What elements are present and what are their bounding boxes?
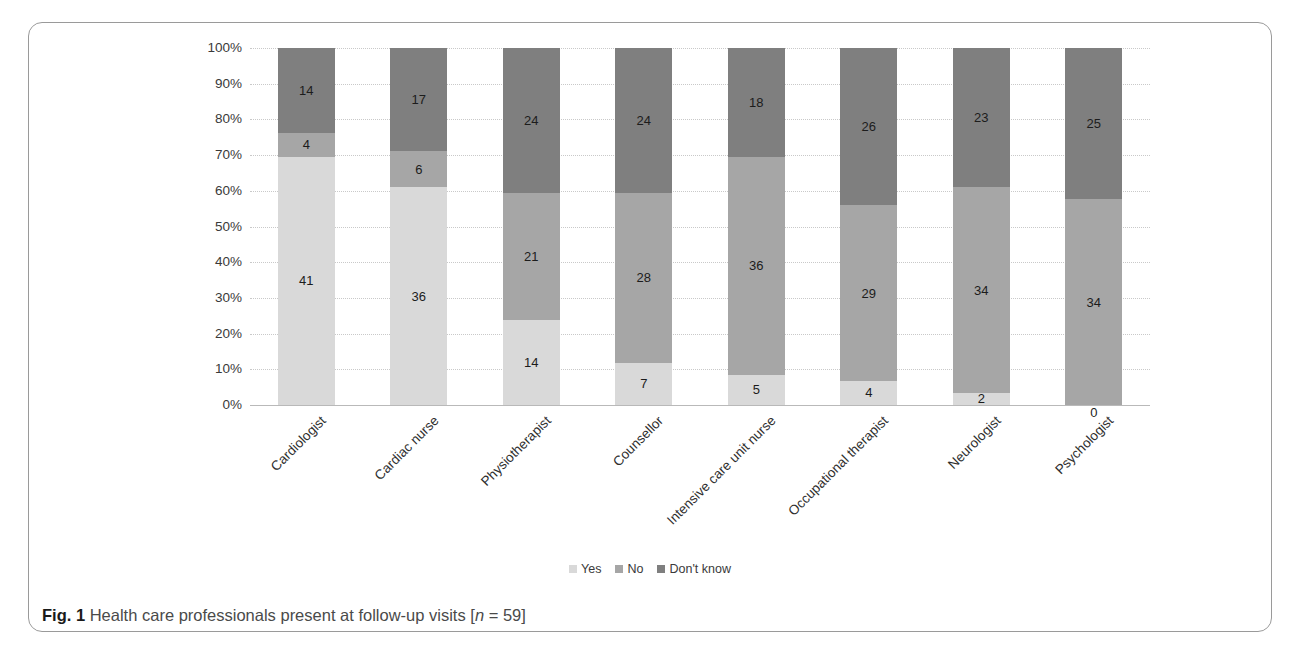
- bar-value-label: 18: [749, 96, 763, 109]
- legend-swatch-icon: [615, 565, 623, 573]
- bar-column[interactable]: 41414: [278, 48, 335, 405]
- bar-segment[interactable]: 24: [503, 48, 560, 193]
- bar-column[interactable]: 53618: [728, 48, 785, 405]
- figure-number: Fig. 1: [42, 606, 85, 624]
- x-axis-tick-label: Cardiologist: [268, 413, 329, 474]
- bar-segment[interactable]: 24: [615, 48, 672, 193]
- bar-segment[interactable]: 14: [278, 48, 335, 133]
- bar-value-label: 21: [524, 250, 538, 263]
- x-axis-tick-label: Psychologist: [1052, 413, 1116, 477]
- plot-area: 4141436617142124728245361842926234230342…: [250, 48, 1150, 405]
- gridline: [250, 227, 1150, 228]
- bar-value-label: 28: [637, 271, 651, 284]
- bar-value-label: 17: [412, 93, 426, 106]
- bar-segment[interactable]: 29: [840, 205, 897, 380]
- bar-segment[interactable]: 6: [390, 151, 447, 187]
- y-axis-tick-label: 90%: [196, 77, 242, 91]
- figure-caption-n: [n = 59]: [470, 606, 526, 624]
- bar-value-label: 4: [865, 386, 872, 399]
- y-axis-tick-label: 40%: [196, 255, 242, 269]
- gridline: [250, 119, 1150, 120]
- bar-value-label: 25: [1087, 117, 1101, 130]
- chart-area: 0%10%20%30%40%50%60%70%80%90%100% 414143…: [0, 0, 1300, 600]
- y-axis-tick-label: 30%: [196, 291, 242, 305]
- bar-segment[interactable]: 17: [390, 48, 447, 151]
- bar-segment[interactable]: 41: [278, 157, 335, 405]
- x-axis-tick-label: Occupational therapist: [786, 413, 892, 519]
- bar-segment[interactable]: 4: [840, 381, 897, 405]
- chart-legend: YesNoDon't know: [0, 558, 1300, 580]
- gridline: [250, 191, 1150, 192]
- bar-column[interactable]: 03425: [1065, 48, 1122, 405]
- x-axis-tick-label: Cardiac nurse: [371, 413, 441, 483]
- bar-segment[interactable]: 21: [503, 193, 560, 320]
- bar-value-label: 7: [640, 377, 647, 390]
- figure-caption-text: Health care professionals present at fol…: [90, 606, 466, 624]
- bar-segment[interactable]: 26: [840, 48, 897, 205]
- legend-item[interactable]: No: [615, 562, 643, 576]
- y-axis-tick-label: 100%: [196, 41, 242, 55]
- bar-segment[interactable]: 18: [728, 48, 785, 157]
- gridline: [250, 48, 1150, 49]
- bar-value-label: 24: [637, 114, 651, 127]
- bar-value-label: 4: [303, 138, 310, 151]
- y-axis-tick-label: 10%: [196, 362, 242, 376]
- bar-value-label: 29: [862, 287, 876, 300]
- bar-segment[interactable]: 36: [728, 157, 785, 375]
- legend-label: Don't know: [669, 562, 730, 576]
- x-axis-tick-label: Counsellor: [610, 413, 666, 469]
- figure-caption: Fig. 1 Health care professionals present…: [42, 600, 1248, 630]
- legend-item[interactable]: Yes: [569, 562, 601, 576]
- bar-value-label: 23: [974, 111, 988, 124]
- bar-value-label: 36: [749, 259, 763, 272]
- bar-column[interactable]: 23423: [953, 48, 1010, 405]
- bar-segment[interactable]: 7: [615, 363, 672, 405]
- y-axis-tick-label: 50%: [196, 220, 242, 234]
- bar-value-label: 24: [524, 114, 538, 127]
- y-axis-tick-label: 80%: [196, 112, 242, 126]
- bar-value-label: 2: [978, 392, 985, 405]
- bar-segment[interactable]: 5: [728, 375, 785, 405]
- y-axis-tick-label: 70%: [196, 148, 242, 162]
- gridline: [250, 84, 1150, 85]
- y-axis-tick-label: 60%: [196, 184, 242, 198]
- bar-segment[interactable]: 14: [503, 320, 560, 405]
- bar-column[interactable]: 36617: [390, 48, 447, 405]
- y-axis-tick-label: 0%: [196, 398, 242, 412]
- bar-segment[interactable]: 34: [1065, 199, 1122, 405]
- gridline: [250, 369, 1150, 370]
- bar-segment[interactable]: 34: [953, 187, 1010, 393]
- y-axis-tick-label: 20%: [196, 327, 242, 341]
- bar-value-label: 6: [415, 163, 422, 176]
- gridline: [250, 262, 1150, 263]
- legend-swatch-icon: [569, 565, 577, 573]
- bar-segment[interactable]: 28: [615, 193, 672, 362]
- x-axis-tick-label: Neurologist: [945, 413, 1004, 472]
- bar-value-label: 34: [974, 284, 988, 297]
- bar-segment[interactable]: 25: [1065, 48, 1122, 199]
- bar-segment[interactable]: 4: [278, 133, 335, 157]
- bar-value-label: 14: [524, 356, 538, 369]
- bar-value-label: 41: [299, 274, 313, 287]
- y-axis: 0%10%20%30%40%50%60%70%80%90%100%: [196, 0, 242, 600]
- legend-item[interactable]: Don't know: [657, 562, 730, 576]
- x-axis-tick-label: Physiotherapist: [478, 413, 554, 489]
- bar-segment[interactable]: 36: [390, 187, 447, 405]
- x-axis: CardiologistCardiac nursePhysiotherapist…: [250, 405, 1150, 555]
- gridline: [250, 155, 1150, 156]
- bar-column[interactable]: 42926: [840, 48, 897, 405]
- bar-value-label: 34: [1087, 296, 1101, 309]
- bar-column[interactable]: 72824: [615, 48, 672, 405]
- bar-segment[interactable]: 23: [953, 48, 1010, 187]
- legend-label: No: [627, 562, 643, 576]
- bar-value-label: 14: [299, 84, 313, 97]
- gridline: [250, 334, 1150, 335]
- gridline: [250, 298, 1150, 299]
- bar-value-label: 26: [862, 120, 876, 133]
- bar-value-label: 5: [753, 383, 760, 396]
- legend-label: Yes: [581, 562, 601, 576]
- bar-value-label: 36: [412, 290, 426, 303]
- bar-segment[interactable]: 2: [953, 393, 1010, 405]
- bar-column[interactable]: 142124: [503, 48, 560, 405]
- legend-swatch-icon: [657, 565, 665, 573]
